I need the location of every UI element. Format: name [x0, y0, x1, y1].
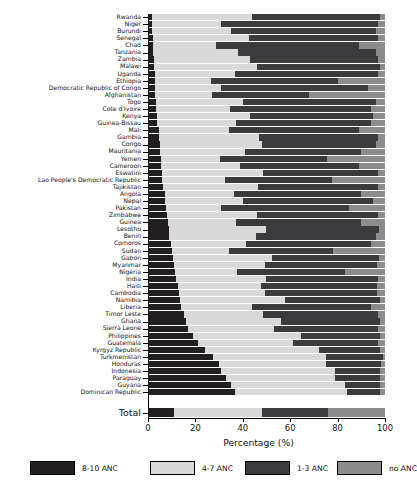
y-axis-tick	[143, 194, 149, 195]
bar-segment-1-3-anc	[256, 233, 376, 239]
bar-segment-4-7-anc	[186, 318, 281, 324]
category-label: Myanmar	[112, 262, 141, 268]
bar-segment-4-7-anc	[155, 71, 234, 77]
bar-segment-no-anc	[380, 297, 385, 303]
bar-segment-1-3-anc	[237, 269, 345, 275]
x-axis-tick	[148, 418, 149, 422]
bar-row	[148, 85, 385, 91]
bar-segment-no-anc	[378, 340, 385, 346]
bar-segment-4-7-anc	[174, 408, 262, 417]
bar-segment-1-3-anc	[252, 14, 380, 20]
bar-segment-8-10-anc	[148, 311, 184, 317]
bar-segment-8-10-anc	[148, 149, 160, 155]
bar-segment-8-10-anc	[148, 340, 198, 346]
y-axis-tick	[143, 137, 149, 138]
legend-item: 8-10 ANC	[30, 461, 118, 475]
bar-segment-8-10-anc	[148, 290, 179, 296]
bar-segment-8-10-anc	[148, 92, 155, 98]
legend-swatch	[245, 461, 290, 475]
y-axis-tick	[143, 251, 149, 252]
x-axis-tick	[385, 418, 386, 422]
bar-row	[148, 49, 385, 55]
bar-segment-4-7-anc	[161, 156, 220, 162]
bar-segment-8-10-anc	[148, 255, 173, 261]
category-label: Eswatini	[116, 170, 141, 176]
bar-row	[148, 326, 385, 332]
bar-row	[148, 354, 385, 360]
category-label-total: Total	[119, 408, 141, 418]
bar-segment-4-7-anc	[174, 262, 265, 268]
y-axis-tick	[143, 293, 149, 294]
y-axis-tick	[143, 60, 149, 61]
y-axis-tick	[143, 81, 149, 82]
y-axis-tick	[143, 392, 149, 393]
bar-segment-4-7-anc	[160, 141, 262, 147]
bar-segment-8-10-anc	[148, 276, 176, 282]
y-axis-tick	[143, 385, 149, 386]
bar-segment-8-10-anc	[148, 361, 219, 367]
y-axis-tick	[143, 322, 149, 323]
bar-segment-4-7-anc	[157, 120, 235, 126]
y-axis-tick	[143, 45, 149, 46]
bar-segment-1-3-anc	[263, 311, 378, 317]
bar-row	[148, 35, 385, 41]
legend-label: 8-10 ANC	[82, 464, 118, 473]
bar-segment-4-7-anc	[166, 205, 222, 211]
bar-row	[148, 241, 385, 247]
bar-segment-4-7-anc	[159, 127, 229, 133]
bar-segment-no-anc	[376, 141, 385, 147]
y-axis-tick	[143, 187, 149, 188]
bar-segment-8-10-anc	[148, 262, 174, 268]
y-axis-tick	[143, 222, 149, 223]
legend-item: 1-3 ANC	[245, 461, 328, 475]
y-axis-tick	[143, 123, 149, 124]
y-axis-tick	[143, 31, 149, 32]
bar-segment-no-anc	[381, 361, 385, 367]
bar-row	[148, 42, 385, 48]
x-axis-tick	[243, 418, 244, 422]
category-label: Gabon	[121, 255, 141, 261]
bar-row	[148, 177, 385, 183]
bar-segment-8-10-anc	[148, 184, 163, 190]
legend-item: 4-7 ANC	[150, 461, 233, 475]
bar-segment-8-10-anc	[148, 85, 155, 91]
bar-segment-no-anc	[338, 78, 385, 84]
bar-segment-8-10-anc	[148, 354, 213, 360]
bar-segment-1-3-anc	[231, 28, 376, 34]
y-axis-tick	[143, 364, 149, 365]
y-axis-tick	[143, 378, 149, 379]
chart-legend: 8-10 ANC4-7 ANC1-3 ANCno ANC	[0, 461, 413, 485]
category-label: Comoros	[114, 240, 141, 246]
y-axis-tick	[143, 109, 149, 110]
bar-segment-no-anc	[380, 382, 385, 388]
y-axis-tick	[143, 265, 149, 266]
bar-segment-no-anc	[378, 311, 385, 317]
bar-segment-no-anc	[361, 219, 385, 225]
bar-segment-8-10-anc	[148, 347, 205, 353]
bar-segment-8-10-anc	[148, 368, 221, 374]
y-axis-tick	[143, 258, 149, 259]
y-axis-tick	[143, 350, 149, 351]
category-label: Nigeria	[119, 269, 141, 275]
bar-row	[148, 347, 385, 353]
bar-row	[148, 56, 385, 62]
bar-segment-8-10-anc	[148, 141, 160, 147]
bar-segment-4-7-anc	[168, 219, 236, 225]
bar-row	[148, 290, 385, 296]
legend-swatch	[150, 461, 195, 475]
bar-row	[148, 276, 385, 282]
bar-segment-4-7-anc	[157, 113, 249, 119]
bar-segment-4-7-anc	[188, 326, 273, 332]
y-axis-tick	[143, 208, 149, 209]
bar-segment-8-10-anc	[148, 382, 231, 388]
y-axis-tick-total	[143, 413, 149, 414]
bar-segment-8-10-anc	[148, 163, 161, 169]
y-axis-tick	[143, 88, 149, 89]
y-axis-tick	[143, 116, 149, 117]
bar-segment-4-7-anc	[179, 290, 266, 296]
legend-label: no ANC	[389, 464, 417, 473]
bar-segment-1-3-anc	[285, 297, 380, 303]
bar-segment-1-3-anc	[216, 42, 359, 48]
bar-segment-1-3-anc	[221, 21, 377, 27]
bar-row	[148, 99, 385, 105]
